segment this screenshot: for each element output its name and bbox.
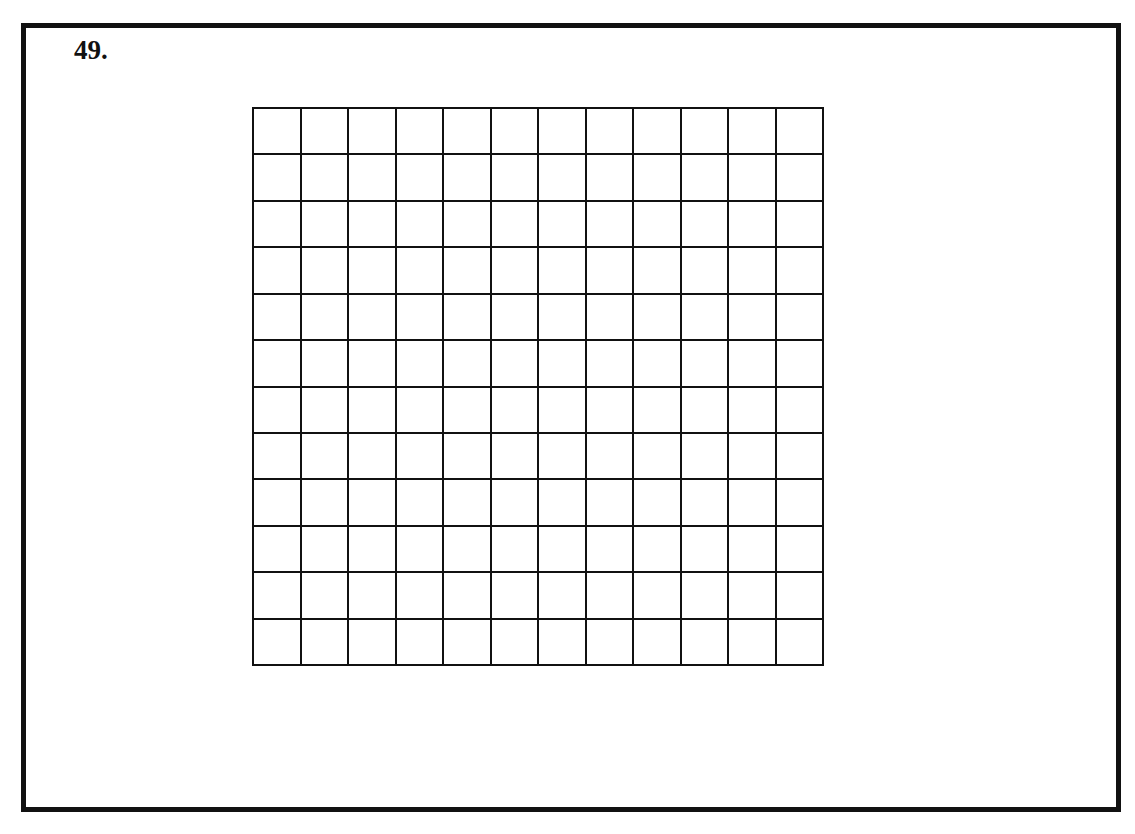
grid-cell (539, 155, 587, 201)
grid-cell (539, 202, 587, 248)
grid-cell (254, 202, 302, 248)
grid-cell (682, 434, 730, 480)
grid-cell (349, 202, 397, 248)
grid-cell (349, 248, 397, 294)
grid-cell (302, 202, 350, 248)
grid-cell (682, 620, 730, 666)
grid-cell (254, 341, 302, 387)
grid-cell (777, 202, 825, 248)
grid-cell (492, 155, 540, 201)
grid-cell (587, 620, 635, 666)
grid-cell (539, 480, 587, 526)
grid-cell (634, 109, 682, 155)
grid-cell (492, 527, 540, 573)
grid-cell (492, 341, 540, 387)
problem-frame: 49. (21, 23, 1121, 812)
grid-cell (682, 527, 730, 573)
grid-cell (349, 573, 397, 619)
grid-cell (539, 573, 587, 619)
grid-cell (254, 155, 302, 201)
grid-cell (682, 573, 730, 619)
grid-cell (777, 527, 825, 573)
grid-cell (729, 573, 777, 619)
grid-cell (397, 202, 445, 248)
grid-cell (729, 341, 777, 387)
grid-cell (254, 295, 302, 341)
grid-cell (349, 341, 397, 387)
grid-cell (777, 434, 825, 480)
grid-cell (634, 573, 682, 619)
grid-cell (729, 109, 777, 155)
grid-cell (302, 295, 350, 341)
grid-cell (254, 109, 302, 155)
grid-cell (587, 480, 635, 526)
grid-cell (444, 388, 492, 434)
grid-cell (444, 109, 492, 155)
grid-cell (539, 434, 587, 480)
grid-cell (634, 480, 682, 526)
grid-cell (349, 527, 397, 573)
grid-cell (492, 295, 540, 341)
grid-cell (254, 388, 302, 434)
grid-cell (444, 573, 492, 619)
grid-cell (254, 527, 302, 573)
grid-cell (397, 434, 445, 480)
grid-cell (682, 295, 730, 341)
grid-cell (682, 248, 730, 294)
grid-cell (349, 388, 397, 434)
grid-cell (254, 620, 302, 666)
grid-cell (254, 480, 302, 526)
grid-cell (682, 155, 730, 201)
grid-cell (444, 295, 492, 341)
grid-cell (539, 620, 587, 666)
grid-cell (397, 109, 445, 155)
square-grid (252, 107, 824, 666)
grid-cell (349, 109, 397, 155)
grid-cell (587, 295, 635, 341)
grid-cell (634, 388, 682, 434)
grid-cell (729, 202, 777, 248)
grid-cell (634, 620, 682, 666)
grid-cell (587, 388, 635, 434)
grid-cell (397, 295, 445, 341)
grid-cell (634, 248, 682, 294)
grid-cell (539, 109, 587, 155)
grid-cell (349, 620, 397, 666)
grid-cell (777, 248, 825, 294)
grid-cell (397, 527, 445, 573)
grid-cell (444, 434, 492, 480)
grid-cell (444, 248, 492, 294)
grid-cell (777, 155, 825, 201)
grid-cell (397, 341, 445, 387)
grid-cell (682, 341, 730, 387)
grid-cell (587, 573, 635, 619)
grid-cell (539, 341, 587, 387)
grid-cell (302, 155, 350, 201)
grid-cell (634, 527, 682, 573)
grid-cell (492, 573, 540, 619)
grid-cell (349, 155, 397, 201)
grid-cell (539, 295, 587, 341)
grid-cell (777, 480, 825, 526)
grid-cell (492, 388, 540, 434)
grid-cell (729, 388, 777, 434)
grid-cell (777, 109, 825, 155)
grid-cell (302, 109, 350, 155)
grid-cell (492, 620, 540, 666)
grid-cell (587, 527, 635, 573)
grid-cell (302, 620, 350, 666)
grid-cell (587, 155, 635, 201)
grid-cell (444, 480, 492, 526)
grid-cell (729, 155, 777, 201)
grid-cell (397, 155, 445, 201)
grid-cell (397, 620, 445, 666)
grid-cell (302, 341, 350, 387)
grid-cell (729, 480, 777, 526)
grid-cell (682, 109, 730, 155)
grid-cell (777, 620, 825, 666)
grid-cell (634, 341, 682, 387)
grid-cell (397, 248, 445, 294)
problem-number: 49. (74, 34, 108, 66)
grid-cell (777, 341, 825, 387)
grid-cell (444, 341, 492, 387)
